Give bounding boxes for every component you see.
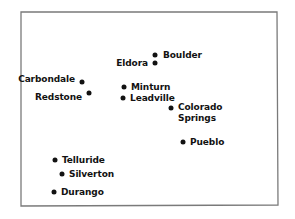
- city-label-carbondale: Carbondale: [18, 74, 75, 84]
- city-marker-silverton[interactable]: [60, 172, 65, 177]
- city-label-colorado-springs: Colorado Springs: [178, 102, 222, 124]
- city-marker-pueblo[interactable]: [181, 140, 186, 145]
- city-label-eldora: Eldora: [116, 58, 148, 68]
- colorado-map: BoulderEldoraCarbondaleRedstoneMinturnLe…: [0, 0, 295, 219]
- city-label-leadville: Leadville: [130, 93, 175, 103]
- city-label-telluride: Telluride: [62, 155, 105, 165]
- city-label-silverton: Silverton: [69, 169, 114, 179]
- city-label-boulder: Boulder: [163, 50, 202, 60]
- city-marker-eldora[interactable]: [153, 61, 158, 66]
- city-label-redstone: Redstone: [35, 92, 82, 102]
- city-label-durango: Durango: [61, 187, 104, 197]
- city-marker-colorado-springs[interactable]: [169, 106, 174, 111]
- city-marker-minturn[interactable]: [122, 85, 127, 90]
- city-marker-durango[interactable]: [52, 190, 57, 195]
- state-border-shape: [21, 12, 278, 206]
- city-label-minturn: Minturn: [131, 82, 170, 92]
- city-marker-redstone[interactable]: [87, 91, 92, 96]
- colorado-state-outline-svg: [0, 0, 295, 219]
- city-marker-carbondale[interactable]: [80, 80, 85, 85]
- city-marker-boulder[interactable]: [153, 53, 158, 58]
- city-label-pueblo: Pueblo: [190, 137, 224, 147]
- city-marker-leadville[interactable]: [121, 96, 126, 101]
- city-marker-telluride[interactable]: [53, 158, 58, 163]
